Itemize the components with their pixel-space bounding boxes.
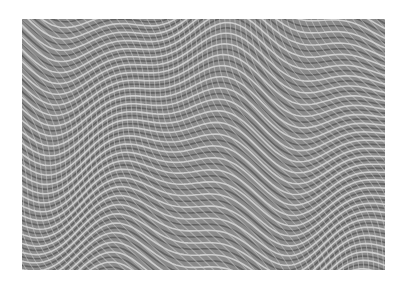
pattern-image [22,19,385,270]
wavy-line-pattern [22,19,385,270]
